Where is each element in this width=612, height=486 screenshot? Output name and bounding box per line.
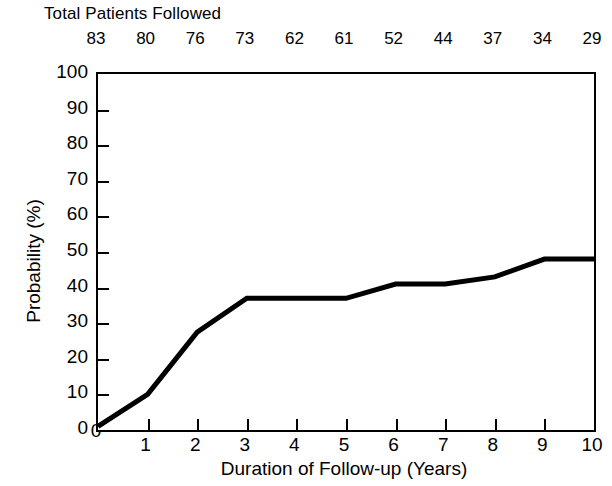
x-axis-title: Duration of Follow-up (Years) [96, 458, 592, 480]
y-axis-tick-label: 0 [40, 417, 88, 439]
x-axis-tick [148, 419, 150, 430]
y-axis-tick-label: 40 [40, 275, 88, 297]
y-axis-tick-label: 100 [40, 61, 88, 83]
y-axis-tick-label: 70 [40, 168, 88, 190]
plot-area [96, 72, 596, 432]
x-axis-tick-label: 8 [488, 434, 499, 456]
x-axis-tick [594, 419, 596, 430]
y-axis-tick-label: 50 [40, 239, 88, 261]
curve-svg [98, 74, 594, 430]
y-axis-tick [98, 181, 109, 183]
x-axis-tick-label: 10 [581, 434, 602, 456]
x-axis-tick [445, 419, 447, 430]
y-axis-tick [98, 145, 109, 147]
x-axis-tick [296, 419, 298, 430]
y-axis-tick [98, 323, 109, 325]
y-axis-tick-label: 30 [40, 310, 88, 332]
x-axis-tick-label: 6 [388, 434, 399, 456]
y-axis-tick-label: 60 [40, 203, 88, 225]
y-axis-tick-label: 20 [40, 346, 88, 368]
x-axis-tick-label: 2 [190, 434, 201, 456]
chart-figure: Total Patients Followed 8380767362615244… [0, 0, 612, 486]
x-axis-tick [396, 419, 398, 430]
x-axis-tick-label: 4 [289, 434, 300, 456]
x-axis-tick [247, 419, 249, 430]
y-axis-tick-label: 10 [40, 381, 88, 403]
y-axis-tick-label: 80 [40, 132, 88, 154]
y-axis-tick [98, 359, 109, 361]
x-axis-tick [495, 419, 497, 430]
x-axis-tick [544, 419, 546, 430]
y-axis-tick [98, 288, 109, 290]
y-axis-tick [98, 110, 109, 112]
x-axis-tick-label: 7 [438, 434, 449, 456]
x-axis-tick [197, 419, 199, 430]
x-axis-tick-label: 5 [339, 434, 350, 456]
probability-curve [98, 259, 594, 426]
y-axis-tick [98, 216, 109, 218]
y-axis-tick-label: 90 [40, 97, 88, 119]
y-axis-tick [98, 394, 109, 396]
y-axis-tick [98, 252, 109, 254]
x-axis-tick-label: 1 [140, 434, 151, 456]
x-axis-tick [346, 419, 348, 430]
x-axis-tick-label: 3 [240, 434, 251, 456]
x-axis-tick-label: 9 [537, 434, 548, 456]
